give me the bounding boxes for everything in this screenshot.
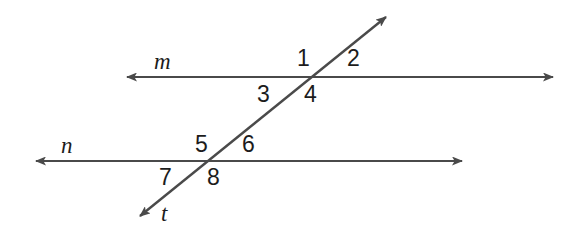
- angle-label-3: 3: [257, 83, 270, 106]
- geometry-canvas: [0, 0, 577, 239]
- angle-label-6: 6: [242, 133, 255, 156]
- geometry-figure: m n t 1 2 3 4 5 6 7 8: [0, 0, 577, 239]
- angle-label-8: 8: [207, 166, 220, 189]
- angle-label-1: 1: [297, 47, 310, 70]
- angle-label-4: 4: [304, 83, 317, 106]
- angle-label-5: 5: [195, 133, 208, 156]
- lines-group: [36, 17, 553, 216]
- line-label-m: m: [154, 50, 171, 73]
- angle-label-2: 2: [347, 47, 360, 70]
- angle-label-7: 7: [159, 166, 172, 189]
- line-label-t: t: [161, 202, 167, 225]
- line-label-n: n: [61, 134, 73, 157]
